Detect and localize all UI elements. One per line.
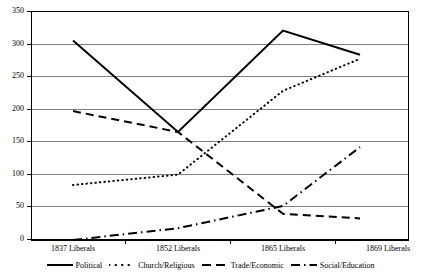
y-axis-label-350: 350 — [2, 7, 24, 15]
line-chart: 350 300 250 200 150 100 50 0 1837 Libera… — [0, 0, 421, 277]
plot-background — [31, 11, 408, 240]
legend-swatch-dashed-icon — [202, 261, 228, 269]
y-axis-label-300: 300 — [2, 40, 24, 48]
y-axis-label-100: 100 — [2, 170, 24, 178]
y-axis-label-0: 0 — [2, 235, 24, 243]
y-axis-label-200: 200 — [2, 105, 24, 113]
legend-item-church-religious[interactable]: Church/Religious — [109, 261, 194, 270]
legend-item-political[interactable]: Political — [47, 261, 103, 270]
legend-label-trade-economic: Trade/Economic — [231, 261, 284, 270]
x-axis-label-1852-liberals: 1852 Liberals — [138, 245, 218, 253]
legend-label-political: Political — [76, 261, 103, 270]
legend-label-social-education: Social/Education — [320, 261, 375, 270]
legend-item-social-education[interactable]: Social/Education — [291, 261, 375, 270]
x-axis-label-1865-liberals: 1865 Liberals — [243, 245, 323, 253]
x-axis-label-1837-liberals: 1837 Liberals — [33, 245, 113, 253]
legend-swatch-dotted-icon — [109, 261, 135, 269]
y-tick-marks — [27, 12, 31, 240]
chart-legend: Political Church/Religious Trade/Economi… — [0, 258, 421, 272]
plot-area — [0, 0, 421, 277]
x-axis-label-1869-liberals: 1869 Liberals — [348, 245, 421, 253]
y-axis-label-150: 150 — [2, 137, 24, 145]
y-axis-label-50: 50 — [2, 202, 24, 210]
y-axis-label-250: 250 — [2, 72, 24, 80]
legend-label-church-religious: Church/Religious — [138, 261, 194, 270]
legend-swatch-dash-dot-icon — [291, 261, 317, 269]
legend-swatch-solid-icon — [47, 261, 73, 269]
legend-item-trade-economic[interactable]: Trade/Economic — [202, 261, 284, 270]
